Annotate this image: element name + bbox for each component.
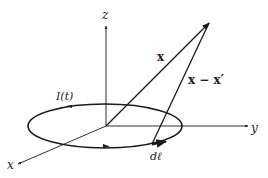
- loop-diagram: z y x x x − x′ I(t) dℓ: [0, 0, 268, 178]
- line-element-label: dℓ: [150, 150, 162, 163]
- position-vector-label: x: [157, 50, 165, 64]
- y-axis-label: y: [250, 121, 258, 135]
- separation-vector-label: x − x′: [188, 73, 224, 87]
- z-axis-label: z: [101, 8, 109, 22]
- current-label: I(t): [55, 90, 73, 103]
- x-axis-label: x: [7, 158, 14, 172]
